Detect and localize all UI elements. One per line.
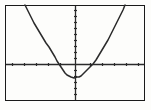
graph-canvas <box>0 0 151 110</box>
graphing-calculator-screen <box>0 0 151 110</box>
y-axis-tick-marks <box>74 11 77 95</box>
